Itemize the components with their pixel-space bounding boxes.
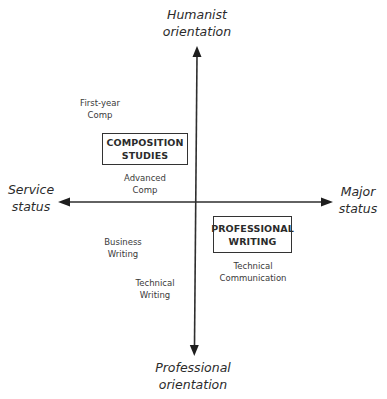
arrow-up-icon — [193, 46, 202, 57]
item-advanced-comp: Advanced Comp — [124, 172, 166, 196]
axis-label-right: Major status — [339, 183, 377, 217]
item-business-writing: Business Writing — [104, 236, 141, 260]
item-technical-communication: Technical Communication — [220, 260, 287, 284]
item-technical-writing: Technical Writing — [135, 277, 174, 301]
axes — [0, 0, 387, 399]
arrow-right-icon — [321, 198, 333, 207]
arrow-left-icon — [58, 198, 70, 207]
quadrant-diagram: Humanist orientation Professional orient… — [0, 0, 387, 399]
vertical-axis — [195, 56, 198, 345]
axis-label-bottom: Professional orientation — [155, 359, 231, 393]
field-box-professional-writing: PROFESSIONAL WRITING — [213, 216, 292, 253]
axis-label-top: Humanist orientation — [163, 6, 231, 40]
item-first-year-comp: First-year Comp — [80, 97, 120, 121]
arrow-down-icon — [190, 345, 199, 356]
axis-label-left: Service status — [8, 181, 54, 215]
field-box-composition-studies: COMPOSITION STUDIES — [102, 133, 188, 165]
